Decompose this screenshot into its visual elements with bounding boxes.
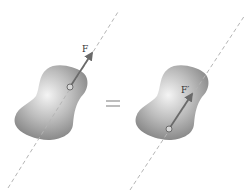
equals-sign — [106, 101, 120, 106]
transmissibility-diagram — [0, 0, 251, 194]
left-rigid-body-group — [8, 12, 118, 188]
right-rigid-body-group — [130, 15, 245, 190]
right-application-point — [166, 126, 172, 132]
right-force-label: F′ — [181, 85, 189, 95]
left-force-label: F — [82, 44, 88, 54]
left-application-point — [67, 84, 73, 90]
